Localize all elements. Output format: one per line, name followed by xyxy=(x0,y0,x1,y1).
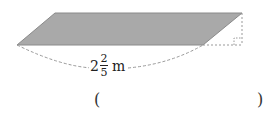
fraction-numerator: 2 xyxy=(100,53,107,64)
base-dimension-arc xyxy=(17,45,92,68)
unit-label: m xyxy=(112,58,125,74)
parallelogram-diagram xyxy=(0,0,269,124)
parallelogram xyxy=(17,13,242,45)
fraction-denominator: 5 xyxy=(100,67,107,78)
mixed-number-whole: 2 xyxy=(90,58,99,74)
right-angle-marker xyxy=(234,38,242,45)
answer-close-paren: ) xyxy=(257,90,263,109)
fraction: 2 5 xyxy=(100,53,108,78)
base-length-label: 2 2 5 m xyxy=(89,53,126,78)
base-dimension-arc-right xyxy=(128,45,203,68)
answer-open-paren: ( xyxy=(94,90,100,109)
